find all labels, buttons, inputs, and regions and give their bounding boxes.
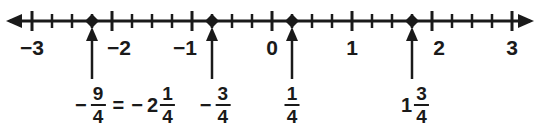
axis-tick-label-1: 1 (346, 37, 358, 58)
axis-right-arrowhead (518, 14, 534, 28)
axis-tick-label-neg-1: −1 (173, 37, 197, 58)
callout-arrow-neg-9-4 (86, 27, 98, 79)
callout-arrow-neg-3-4 (206, 27, 218, 79)
point-label-neg-3-4: − 3 4 (200, 84, 231, 126)
axis-tick-label-neg-2: −2 (107, 37, 131, 58)
fraction-denominator: 4 (415, 106, 428, 126)
fraction-denominator: 4 (217, 106, 230, 126)
equals-sign: = (113, 95, 125, 115)
axis-tick-label-0: 0 (266, 37, 278, 58)
minus-sign: − (75, 95, 87, 115)
point-marker-neg-3-4 (205, 14, 219, 28)
fraction-numerator: 1 (161, 84, 174, 104)
fraction-numerator: 3 (217, 84, 230, 104)
callout-arrow-1-3-4 (406, 27, 418, 79)
number-line-figure: −3 −2 −1 0 1 2 3 − 9 4 = − 2 1 4 − 3 4 1 (0, 0, 540, 128)
axis-left-arrowhead (6, 14, 22, 28)
minus-sign: − (200, 95, 212, 115)
axis-tick-label-2: 2 (433, 37, 445, 58)
fraction-denominator: 4 (161, 106, 174, 126)
axis-tick-label-neg-3: −3 (20, 37, 44, 58)
point-label-1-3-4: 1 3 4 (401, 84, 429, 126)
callout-arrows (86, 27, 418, 79)
fraction-denominator: 4 (286, 106, 299, 126)
point-marker-neg-9-4 (85, 14, 99, 28)
point-label-neg-9-4: − 9 4 = − 2 1 4 (75, 84, 175, 126)
whole-number-part: 1 (401, 95, 412, 115)
axis-tick-label-3: 3 (506, 37, 518, 58)
fraction-denominator: 4 (92, 106, 105, 126)
callout-arrow-1-4 (286, 27, 298, 79)
fraction-numerator: 9 (92, 84, 105, 104)
fraction-9-over-4: 9 4 (91, 84, 106, 126)
fraction-3-over-4: 3 4 (414, 84, 429, 126)
point-marker-1-3-4 (405, 14, 419, 28)
whole-number-part: 2 (147, 95, 158, 115)
fraction-1-over-4: 1 4 (160, 84, 175, 126)
fraction-numerator: 1 (286, 84, 299, 104)
fraction-1-over-4: 1 4 (285, 84, 300, 126)
minus-sign-2: − (131, 95, 143, 115)
fraction-numerator: 3 (415, 84, 428, 104)
point-marker-1-4 (285, 14, 299, 28)
point-label-1-4: 1 4 (285, 84, 300, 126)
fraction-3-over-4: 3 4 (215, 84, 230, 126)
